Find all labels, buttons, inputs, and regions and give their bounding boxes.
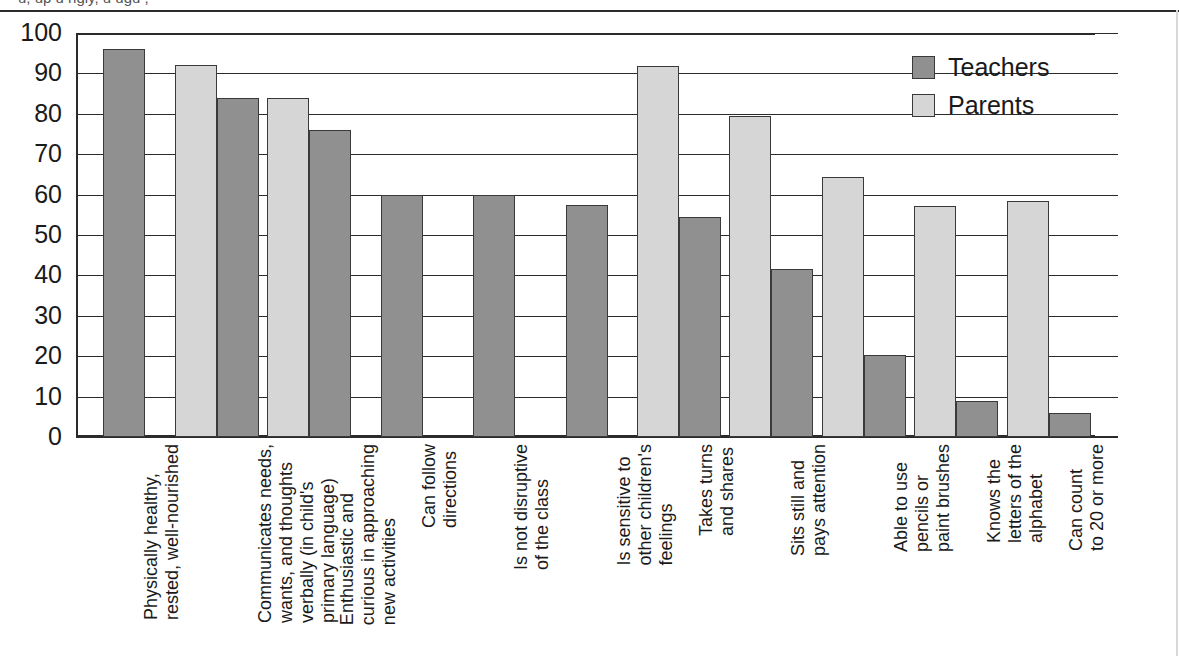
- bar-parents-group-8[interactable]: [822, 177, 864, 437]
- x-axis-label-group-2: Enthusiastic andcurious in approachingne…: [337, 444, 400, 625]
- x-axis-label-line: primary language): [318, 444, 339, 623]
- legend-item-teachers[interactable]: Teachers: [912, 52, 1102, 84]
- x-axis-label-line: letters of the: [1005, 444, 1026, 543]
- x-axis-label-line: pencils or: [912, 444, 933, 552]
- bar-parents-group-1[interactable]: [175, 65, 217, 437]
- x-axis-label-group-9: Knows theletters of thealphabet: [984, 444, 1047, 543]
- legend-swatch-icon-teachers: [912, 56, 935, 79]
- x-axis-label-group-10: Can countto 20 or more: [1066, 444, 1108, 551]
- chart-legend: Teachers Parents: [912, 52, 1102, 128]
- bar-parents-group-2[interactable]: [267, 98, 309, 437]
- x-axis-label-line: paint brushes: [933, 444, 954, 552]
- bar-teachers-group-7[interactable]: [771, 269, 813, 437]
- bar-teachers-group-10[interactable]: [1049, 413, 1091, 437]
- x-axis-label-line: Enthusiastic and: [337, 444, 358, 625]
- bar-parents-group-9[interactable]: [914, 206, 956, 437]
- x-axis-label-line: rested, well-nourished: [162, 444, 183, 620]
- y-axis-tick-10: 10: [0, 384, 62, 409]
- x-axis-label-group-7: Sits still andpays attention: [788, 444, 830, 556]
- legend-swatch-icon-parents: [912, 94, 935, 117]
- x-axis-label-line: alphabet: [1026, 444, 1047, 543]
- x-axis-label-group-0: Physically healthy,rested, well-nourishe…: [141, 444, 183, 620]
- bar-teachers-group-0[interactable]: [103, 49, 145, 437]
- x-axis-label-group-1: Communicates needs,wants, and thoughtsve…: [255, 444, 339, 623]
- legend-label-teachers: Teachers: [948, 52, 1049, 82]
- legend-label-parents: Parents: [948, 90, 1034, 120]
- bar-teachers-group-5[interactable]: [566, 205, 608, 437]
- x-axis-label-line: to 20 or more: [1087, 444, 1108, 551]
- bar-teachers-group-9[interactable]: [956, 401, 998, 437]
- x-axis-label-line: Able to use: [891, 444, 912, 552]
- x-axis-label-line: of the class: [532, 444, 553, 570]
- bar-teachers-group-2[interactable]: [309, 130, 351, 437]
- x-axis-category-labels: Physically healthy,rested, well-nourishe…: [78, 444, 1095, 656]
- y-axis-tick-0: 0: [0, 424, 62, 449]
- x-axis-label-line: curious in approaching: [358, 444, 379, 625]
- x-axis-label-line: Is sensitive to: [614, 444, 635, 566]
- x-axis-label-line: new activities: [379, 444, 400, 625]
- x-axis-label-line: other children's: [635, 444, 656, 566]
- x-axis-label-line: Knows the: [984, 444, 1005, 543]
- x-axis-label-group-5: Is sensitive toother children'sfeelings: [614, 444, 677, 566]
- y-axis-tick-40: 40: [0, 262, 62, 287]
- bar-parents-group-6[interactable]: [637, 66, 679, 437]
- x-axis-label-line: pays attention: [809, 444, 830, 556]
- y-axis-tick-20: 20: [0, 343, 62, 368]
- x-axis-label-line: feelings: [656, 444, 677, 566]
- y-axis-tick-90: 90: [0, 60, 62, 85]
- y-axis-tick-70: 70: [0, 141, 62, 166]
- x-axis-label-group-6: Takes turnsand shares: [696, 444, 738, 536]
- x-axis-label-line: Sits still and: [788, 444, 809, 556]
- y-axis-tick-80: 80: [0, 101, 62, 126]
- x-axis-label-line: and shares: [717, 444, 738, 536]
- bar-chart: 0102030405060708090100 Physically health…: [0, 0, 1179, 656]
- legend-item-parents[interactable]: Parents: [912, 90, 1102, 122]
- y-axis-tick-60: 60: [0, 182, 62, 207]
- x-axis-label-line: wants, and thoughts: [276, 444, 297, 623]
- x-axis-label-line: verbally (in child's: [297, 444, 318, 623]
- x-axis-label-line: Can follow: [419, 444, 440, 528]
- bar-teachers-group-1[interactable]: [217, 98, 259, 437]
- x-axis-label-line: Communicates needs,: [255, 444, 276, 623]
- y-axis-tick-30: 30: [0, 303, 62, 328]
- x-axis-label-group-3: Can followdirections: [419, 444, 461, 528]
- x-axis-label-line: Can count: [1066, 444, 1087, 551]
- bar-teachers-group-4[interactable]: [473, 195, 515, 437]
- x-axis-label-line: Physically healthy,: [141, 444, 162, 620]
- bar-parents-group-7[interactable]: [729, 116, 771, 437]
- x-axis-label-group-8: Able to usepencils orpaint brushes: [891, 444, 954, 552]
- x-axis-label-line: Takes turns: [696, 444, 717, 536]
- x-axis-label-group-4: Is not disruptiveof the class: [511, 444, 553, 570]
- bar-parents-group-10[interactable]: [1007, 201, 1049, 437]
- x-axis-label-line: Is not disruptive: [511, 444, 532, 570]
- bar-teachers-group-6[interactable]: [679, 217, 721, 437]
- x-axis-label-line: directions: [440, 444, 461, 528]
- y-axis-tick-100: 100: [0, 20, 62, 45]
- bar-teachers-group-8[interactable]: [864, 355, 906, 437]
- y-axis-tick-50: 50: [0, 222, 62, 247]
- bar-teachers-group-3[interactable]: [381, 195, 423, 437]
